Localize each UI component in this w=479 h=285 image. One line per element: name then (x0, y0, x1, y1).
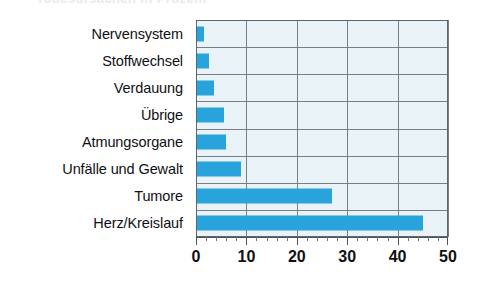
x-tick-minor (287, 237, 288, 241)
bar-series (196, 20, 448, 237)
x-tick-minor (428, 237, 429, 241)
category-label: Stoffwechsel (6, 47, 191, 74)
bar[interactable] (196, 216, 423, 231)
x-tick-minor (367, 237, 368, 241)
x-tick-label: 10 (237, 248, 255, 266)
x-axis-line (196, 237, 448, 238)
bar[interactable] (196, 135, 226, 150)
x-tick-label: 50 (439, 248, 457, 266)
x-tick-major (297, 237, 298, 245)
category-label: Nervensystem (6, 20, 191, 47)
x-tick-minor (226, 237, 227, 241)
bar-row (196, 129, 448, 156)
x-tick-major (246, 237, 247, 245)
category-label: Atmungsorgane (6, 129, 191, 156)
x-tick-minor (267, 237, 268, 241)
category-label: Herz/Kreislauf (6, 210, 191, 237)
bar-row (196, 20, 448, 47)
x-tick-minor (337, 237, 338, 241)
bar-row (196, 74, 448, 101)
x-tick-minor (418, 237, 419, 241)
bar-row (196, 156, 448, 183)
x-tick-label: 20 (288, 248, 306, 266)
x-tick-minor (256, 237, 257, 241)
category-label: Unfälle und Gewalt (6, 156, 191, 183)
x-tick-minor (438, 237, 439, 241)
x-tick-minor (408, 237, 409, 241)
x-tick-minor (277, 237, 278, 241)
bar-row (196, 210, 448, 237)
x-tick-major (196, 237, 197, 245)
bar-row (196, 101, 448, 128)
x-tick-major (398, 237, 399, 245)
x-tick-label: 0 (192, 248, 201, 266)
x-tick-minor (377, 237, 378, 241)
category-label: Verdauung (6, 74, 191, 101)
plot-area (196, 20, 448, 237)
bar-row (196, 47, 448, 74)
x-tick-major (347, 237, 348, 245)
x-tick-label: 40 (389, 248, 407, 266)
bar[interactable] (196, 53, 209, 68)
bar[interactable] (196, 26, 204, 41)
x-tick-label: 30 (338, 248, 356, 266)
bar[interactable] (196, 107, 224, 122)
x-tick-minor (357, 237, 358, 241)
x-tick-minor (206, 237, 207, 241)
category-label: Übrige (6, 101, 191, 128)
x-axis-tick-labels: 01020304050 (196, 248, 448, 272)
bar[interactable] (196, 162, 241, 177)
bar-row (196, 183, 448, 210)
x-tick-major (447, 237, 448, 245)
x-tick-minor (388, 237, 389, 241)
bar[interactable] (196, 80, 214, 95)
category-label: Tumore (6, 183, 191, 210)
category-axis-labels: Nervensystem Stoffwechsel Verdauung Übri… (6, 20, 191, 237)
x-tick-minor (327, 237, 328, 241)
x-tick-minor (317, 237, 318, 241)
bar[interactable] (196, 189, 332, 204)
horizontal-bar-chart: Nervensystem Stoffwechsel Verdauung Übri… (0, 0, 479, 285)
x-tick-minor (307, 237, 308, 241)
x-axis (196, 237, 448, 247)
gridline-vertical (448, 20, 449, 237)
x-tick-minor (236, 237, 237, 241)
x-tick-minor (216, 237, 217, 241)
